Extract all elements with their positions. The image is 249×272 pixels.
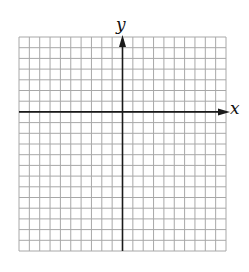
y-axis-label: y — [116, 16, 126, 33]
coordinate-plane — [0, 0, 249, 272]
x-axis-label: x — [230, 100, 240, 117]
x-axis-arrow-icon — [218, 108, 230, 115]
